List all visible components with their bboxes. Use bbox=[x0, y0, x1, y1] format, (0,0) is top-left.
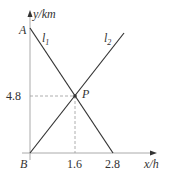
x-axis-arrow-icon bbox=[150, 151, 157, 156]
distance-time-diagram: y/km x/h A B P l1 l2 4.8 1.6 2.8 bbox=[0, 0, 172, 172]
point-a-label: A bbox=[18, 23, 27, 37]
line-l1 bbox=[30, 28, 113, 153]
y-axis-arrow-icon bbox=[28, 10, 33, 17]
x-axis-label: x/h bbox=[143, 157, 159, 171]
point-b-label: B bbox=[20, 157, 28, 171]
tick-label-2-8: 2.8 bbox=[105, 157, 120, 171]
line-l1-label: l1 bbox=[42, 31, 49, 47]
tick-label-4-8: 4.8 bbox=[6, 89, 21, 103]
y-axis-label: y/km bbox=[32, 7, 56, 21]
tick-label-1-6: 1.6 bbox=[67, 157, 82, 171]
point-p-label: P bbox=[81, 87, 90, 101]
line-l2-label: l2 bbox=[104, 31, 111, 47]
line-l2 bbox=[30, 33, 124, 153]
intersection-point-p bbox=[73, 94, 77, 98]
